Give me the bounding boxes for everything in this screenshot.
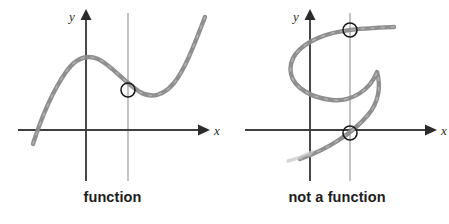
y-axis-arrow-icon [81,9,92,20]
caption-function: function [0,188,225,206]
panel-not-function: y x not a function [225,0,449,224]
vertical-line-test-figure: y x function y x not a [0,0,449,224]
x-axis-label: x [213,123,220,138]
panel-function: y x function [0,0,225,224]
x-axis-label: x [440,123,447,138]
y-axis-label: y [67,9,75,24]
not-function-curve [291,27,394,159]
y-axis-label: y [291,9,299,24]
x-axis-arrow-icon [198,125,210,136]
caption-not-function: not a function [225,188,449,206]
x-axis-arrow-icon [425,125,437,136]
function-curve [33,17,205,144]
y-axis-arrow-icon [305,9,316,20]
